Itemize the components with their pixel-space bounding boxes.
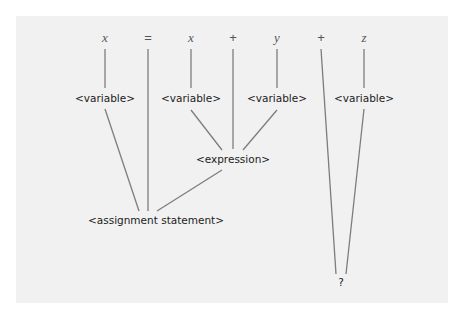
- edge-expr-assign: [157, 170, 222, 211]
- node-variable: <variable>: [75, 93, 135, 104]
- node-unknown: ?: [338, 277, 344, 288]
- node-expression: <expression>: [196, 154, 270, 165]
- token-y: y: [274, 31, 280, 44]
- edge-var1-assign: [105, 109, 139, 211]
- node-assignment-statement: <assignment statement>: [88, 215, 224, 226]
- token-plus: +: [317, 31, 325, 44]
- edge-var2-expr: [191, 110, 222, 150]
- edge-var4-unknown: [346, 109, 364, 274]
- node-variable: <variable>: [161, 93, 221, 104]
- node-variable: <variable>: [247, 93, 307, 104]
- edge-var3-expr: [243, 110, 277, 150]
- token-equals: =: [144, 31, 152, 44]
- token-plus: +: [229, 31, 237, 44]
- edge-plus2-unknown: [321, 49, 336, 274]
- token-z: z: [361, 31, 366, 44]
- token-x: x: [188, 31, 194, 44]
- node-variable: <variable>: [334, 93, 394, 104]
- token-x: x: [102, 31, 108, 44]
